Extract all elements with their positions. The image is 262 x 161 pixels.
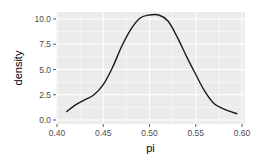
x-tick-label: 0.55: [187, 128, 204, 138]
y-tick-label: 0.0: [39, 115, 51, 125]
y-axis: 0.02.55.07.510.0: [34, 14, 56, 125]
y-tick-label: 2.5: [39, 90, 51, 100]
x-axis-title: pi: [146, 142, 155, 154]
x-tick-label: 0.50: [141, 128, 158, 138]
x-axis: 0.400.450.500.550.60: [49, 124, 251, 138]
y-tick-label: 10.0: [34, 14, 51, 24]
x-tick-label: 0.45: [95, 128, 112, 138]
y-tick-label: 5.0: [39, 65, 51, 75]
density-chart: 0.400.450.500.550.60 0.02.55.07.510.0 pi…: [0, 0, 262, 161]
x-tick-label: 0.40: [49, 128, 66, 138]
x-tick-label: 0.60: [234, 128, 251, 138]
y-axis-title: density: [12, 50, 24, 85]
y-tick-label: 7.5: [39, 39, 51, 49]
